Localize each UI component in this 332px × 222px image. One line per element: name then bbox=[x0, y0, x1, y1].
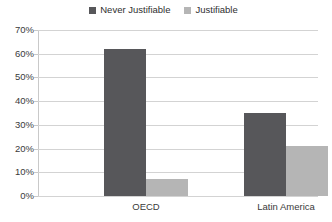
gridline bbox=[38, 101, 318, 102]
legend-label-justifiable: Justifiable bbox=[195, 5, 237, 15]
legend-item-justifiable: Justifiable bbox=[184, 5, 237, 15]
gridline bbox=[38, 196, 318, 197]
chart-legend: Never Justifiable Justifiable bbox=[0, 2, 327, 18]
y-axis-tick-mark bbox=[34, 30, 38, 31]
x-axis-category-label: OECD bbox=[86, 202, 206, 212]
y-axis-tick-mark bbox=[34, 172, 38, 173]
y-axis-tick-mark bbox=[34, 54, 38, 55]
x-axis-category-label: Latin America bbox=[226, 202, 332, 212]
y-axis-tick-label: 50% bbox=[2, 72, 34, 82]
y-axis-tick-mark bbox=[34, 149, 38, 150]
y-axis-tick-mark bbox=[34, 196, 38, 197]
gridline bbox=[38, 30, 318, 31]
bar-justifiable-latin-america bbox=[286, 146, 328, 196]
legend-swatch-justifiable-icon bbox=[184, 7, 191, 14]
y-axis-tick-label: 30% bbox=[2, 120, 34, 130]
y-axis-tick-label: 10% bbox=[2, 167, 34, 177]
y-axis-tick-label: 70% bbox=[2, 25, 34, 35]
bar-justifiable-oecd bbox=[146, 179, 188, 196]
y-axis-tick-label: 60% bbox=[2, 49, 34, 59]
y-axis-labels: 0%10%20%30%40%50%60%70% bbox=[0, 0, 34, 222]
legend-item-never-justifiable: Never Justifiable bbox=[89, 5, 170, 15]
y-axis-tick-mark bbox=[34, 125, 38, 126]
gridline bbox=[38, 54, 318, 55]
plot-area bbox=[38, 30, 318, 196]
bar-never-justifiable-oecd bbox=[104, 49, 146, 196]
y-axis-tick-label: 40% bbox=[2, 96, 34, 106]
y-axis-tick-label: 20% bbox=[2, 144, 34, 154]
legend-label-never-justifiable: Never Justifiable bbox=[100, 5, 170, 15]
y-axis-tick-mark bbox=[34, 77, 38, 78]
bar-never-justifiable-latin-america bbox=[244, 113, 286, 196]
y-axis-tick-label: 0% bbox=[2, 191, 34, 201]
y-axis-tick-mark bbox=[34, 101, 38, 102]
gridline bbox=[38, 77, 318, 78]
legend-swatch-never-justifiable-icon bbox=[89, 7, 96, 14]
